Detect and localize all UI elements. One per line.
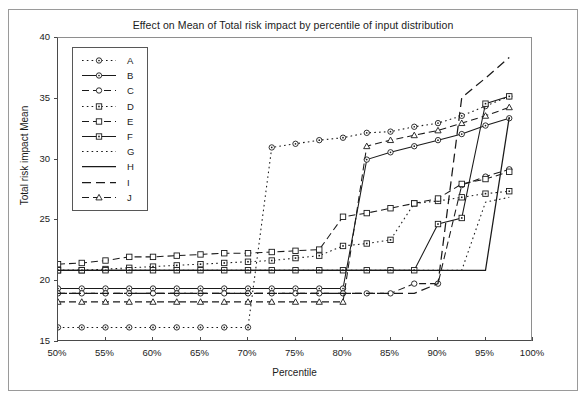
legend-label: G xyxy=(127,145,138,158)
x-tick-label: 75% xyxy=(272,347,318,358)
legend-item-H[interactable]: H xyxy=(80,159,138,174)
x-tick-label: 65% xyxy=(177,347,223,358)
x-tick-label: 95% xyxy=(462,347,508,358)
legend-item-F[interactable]: F xyxy=(80,129,138,144)
x-tick-label: 50% xyxy=(34,347,80,358)
legend-label: A xyxy=(127,54,138,67)
legend-swatch-I xyxy=(80,176,118,189)
x-tick-mark xyxy=(532,337,533,341)
legend-item-E[interactable]: E xyxy=(80,114,138,129)
legend-label: B xyxy=(127,69,138,82)
y-tick-label: 35 xyxy=(24,92,50,103)
legend-label: J xyxy=(127,191,138,204)
legend-label: D xyxy=(127,100,138,113)
legend-item-G[interactable]: G xyxy=(80,144,138,159)
x-tick-label: 80% xyxy=(319,347,365,358)
x-tick-label: 90% xyxy=(414,347,460,358)
y-tick-label: 25 xyxy=(24,213,50,224)
y-tick-label: 40 xyxy=(24,31,50,42)
y-tick-label: 20 xyxy=(24,274,50,285)
legend-item-J[interactable]: J xyxy=(80,190,138,205)
legend: ABCDEFGHIJ xyxy=(72,47,148,211)
legend-swatch-C xyxy=(80,84,118,97)
y-tick-label: 15 xyxy=(24,335,50,346)
legend-swatch-D xyxy=(80,100,118,113)
legend-label: I xyxy=(127,176,138,189)
x-axis-title: Percentile xyxy=(57,367,532,378)
legend-label: E xyxy=(127,115,138,128)
x-tick-label: 60% xyxy=(129,347,175,358)
legend-item-C[interactable]: C xyxy=(80,83,138,98)
legend-label: F xyxy=(127,130,138,143)
x-tick-label: 100% xyxy=(509,347,555,358)
x-tick-label: 55% xyxy=(82,347,128,358)
y-tick-mark xyxy=(54,341,58,342)
legend-swatch-F xyxy=(80,130,118,143)
legend-swatch-E xyxy=(80,115,118,128)
legend-item-A[interactable]: A xyxy=(80,53,138,68)
legend-item-D[interactable]: D xyxy=(80,99,138,114)
legend-label: H xyxy=(127,160,138,173)
legend-item-B[interactable]: B xyxy=(80,68,138,83)
x-tick-label: 70% xyxy=(224,347,270,358)
legend-swatch-B xyxy=(80,69,118,82)
legend-item-I[interactable]: I xyxy=(80,175,138,190)
chart-figure: Effect on Mean of Total risk impact by p… xyxy=(0,0,586,400)
chart-title: Effect on Mean of Total risk impact by p… xyxy=(0,19,586,31)
x-tick-label: 85% xyxy=(367,347,413,358)
y-tick-label: 30 xyxy=(24,153,50,164)
legend-label: C xyxy=(127,84,138,97)
legend-swatch-G xyxy=(80,145,118,158)
legend-swatch-J xyxy=(80,191,118,204)
legend-swatch-A xyxy=(80,54,118,67)
legend-swatch-H xyxy=(80,160,118,173)
